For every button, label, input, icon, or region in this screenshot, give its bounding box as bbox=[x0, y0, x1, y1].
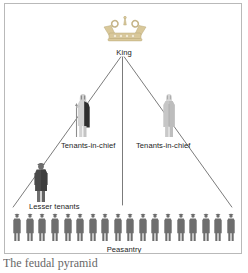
peasant-figure-icon bbox=[125, 212, 135, 242]
peasant-figure-icon bbox=[176, 212, 186, 242]
peasant-figure-icon bbox=[100, 212, 110, 242]
label-tenants-in-chief-right: Tenants-in-chief bbox=[136, 141, 190, 150]
person-figure-icon bbox=[31, 160, 51, 204]
peasant-figure-icon bbox=[12, 212, 22, 242]
diagram-frame: King bbox=[4, 3, 242, 254]
figure-caption: The feudal pyramid bbox=[3, 256, 98, 271]
peasant-figure-icon bbox=[37, 212, 47, 242]
cleric-figure-icon bbox=[159, 92, 179, 139]
peasant-figure-icon bbox=[50, 212, 60, 242]
peasant-figure-icon bbox=[75, 212, 85, 242]
peasant-figure-icon bbox=[88, 212, 98, 242]
peasant-figure-icon bbox=[113, 212, 123, 242]
peasant-figure-icon bbox=[25, 212, 35, 242]
peasant-figure-icon bbox=[63, 212, 73, 242]
peasant-figure-icon bbox=[163, 212, 173, 242]
line-left-diagonal bbox=[13, 57, 121, 208]
label-king: King bbox=[5, 48, 242, 57]
peasant-figure-icon bbox=[188, 212, 198, 242]
label-lesser-tenants: Lesser tenants bbox=[29, 202, 80, 211]
peasant-figure-icon bbox=[226, 212, 236, 242]
label-tenants-in-chief-left: Tenants-in-chief bbox=[61, 141, 115, 150]
diagram-stage: King bbox=[5, 4, 241, 253]
knight-figure-icon bbox=[71, 92, 95, 139]
feudal-pyramid-figure: King bbox=[0, 0, 248, 273]
peasant-figure-icon bbox=[150, 212, 160, 242]
peasant-figure-icon bbox=[138, 212, 148, 242]
crown-icon bbox=[102, 16, 148, 47]
peasantry-row bbox=[11, 212, 237, 244]
label-peasantry: Peasantry bbox=[5, 245, 242, 254]
peasant-figure-icon bbox=[213, 212, 223, 242]
peasant-figure-icon bbox=[201, 212, 211, 242]
